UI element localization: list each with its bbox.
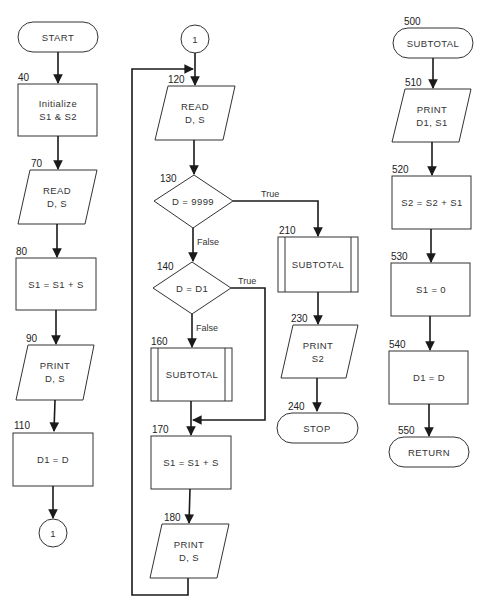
true-label: True xyxy=(238,276,256,286)
start-label: START xyxy=(42,32,74,43)
node-text-line1: D1 = D xyxy=(37,454,69,465)
node-text: S2 = S2 + S1 xyxy=(401,197,462,208)
connector-label: 1 xyxy=(50,528,56,539)
step-number: 120 xyxy=(168,74,185,85)
step-number: 230 xyxy=(291,313,308,324)
loop-back-arrow xyxy=(132,69,193,595)
node-text: STOP xyxy=(303,423,330,434)
flowchart-canvas: START 40 Initialize S1 & S2 70 READ D, S… xyxy=(0,0,489,608)
step-number: 210 xyxy=(279,225,296,236)
node-text-line1: PRINT xyxy=(303,340,334,351)
arrow-130-true-210 xyxy=(233,201,318,236)
start-terminal: START xyxy=(18,22,98,52)
step-number: 180 xyxy=(164,512,181,523)
true-label: True xyxy=(261,189,279,199)
step-number: 500 xyxy=(404,16,421,27)
arrow-170-180 xyxy=(189,489,190,523)
node-text: D1 = D xyxy=(413,372,445,383)
subtotal-subroutine: 500 SUBTOTAL 510 PRINT D1, S1 520 S2 = S… xyxy=(389,16,473,467)
node-text: SUBTOTAL xyxy=(407,38,459,49)
offpage-connector-in: 1 xyxy=(181,25,209,53)
step-number: 40 xyxy=(18,72,30,83)
node-text-line2: D, S xyxy=(45,373,65,384)
node-text-line2: S2 xyxy=(312,353,324,364)
node-text-line2: D, S xyxy=(185,114,205,125)
node-text-line1: Initialize xyxy=(39,98,77,109)
step-number: 530 xyxy=(391,251,408,262)
io-90: 90 PRINT D, S xyxy=(16,333,94,400)
process-80: 80 S1 = S1 + S xyxy=(16,246,96,310)
step-number: 170 xyxy=(152,424,169,435)
io-230: 230 PRINT S2 xyxy=(281,313,358,378)
step-number: 80 xyxy=(16,246,28,257)
step-number: 130 xyxy=(160,173,177,184)
process-540: 540 D1 = D xyxy=(389,339,468,404)
step-number: 90 xyxy=(26,333,38,344)
node-text-line1: PRINT xyxy=(417,104,448,115)
processing-loop: 1 120 READ D, S 130 D = 9999 True False … xyxy=(132,25,358,595)
offpage-connector-out: 1 xyxy=(39,519,67,547)
step-number: 160 xyxy=(151,336,168,347)
node-text-line1: S1 = S1 + S xyxy=(28,279,84,290)
node-text: S1 = S1 + S xyxy=(163,457,219,468)
main-program: START 40 Initialize S1 & S2 70 READ D, S… xyxy=(13,22,98,547)
step-number: 240 xyxy=(288,401,305,412)
connector-label: 1 xyxy=(192,34,198,45)
node-text-line2: S1 & S2 xyxy=(39,111,77,122)
step-number: 110 xyxy=(14,420,30,431)
step-number: 550 xyxy=(398,425,415,436)
process-110: 110 D1 = D xyxy=(13,420,93,486)
node-text-line2: D1, S1 xyxy=(416,117,447,128)
step-number: 520 xyxy=(392,164,409,175)
node-text-line1: PRINT xyxy=(174,539,205,550)
decision-text: D = D1 xyxy=(176,283,208,294)
node-text-line2: D, S xyxy=(179,552,199,563)
step-number: 540 xyxy=(389,339,406,350)
false-label: False xyxy=(197,237,219,247)
node-text-line1: PRINT xyxy=(40,360,71,371)
step-number: 510 xyxy=(405,77,422,88)
decision-130: 130 D = 9999 xyxy=(154,173,233,228)
arrow-90-110 xyxy=(54,400,55,431)
subroutine-entry-500: 500 SUBTOTAL xyxy=(393,16,473,58)
false-label: False xyxy=(196,323,218,333)
io-510: 510 PRINT D1, S1 xyxy=(392,77,471,142)
node-text-line1: READ xyxy=(43,185,71,196)
node-text-line2: D, S xyxy=(47,198,67,209)
node-text: SUBTOTAL xyxy=(292,259,344,270)
node-text-line1: READ xyxy=(181,101,209,112)
decision-text: D = 9999 xyxy=(172,196,214,207)
node-text: SUBTOTAL xyxy=(166,369,218,380)
node-text: RETURN xyxy=(408,447,450,458)
decision-140: 140 D = D1 xyxy=(153,261,231,314)
step-number: 70 xyxy=(31,158,43,169)
node-text: S1 = 0 xyxy=(416,284,446,295)
step-number: 140 xyxy=(157,261,174,272)
